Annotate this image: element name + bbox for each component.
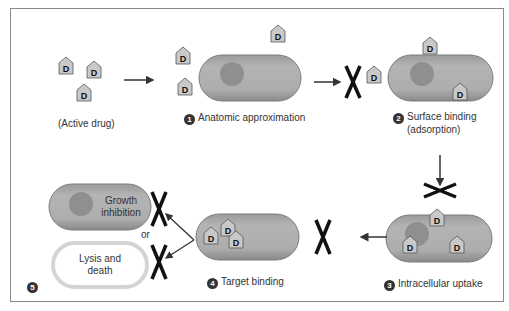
step-number-badge: 4 [207,278,218,289]
step3-text: Intracellular uptake [398,278,483,289]
drug-icon [176,47,190,64]
arrow-branch-down-icon [166,240,194,258]
drug-icon [59,57,73,74]
drug-icon [430,209,444,226]
cell-step2 [367,37,493,101]
free-drug-group [59,57,101,101]
step-number-badge: 5 [27,282,38,293]
drug-icon [178,78,192,95]
growth-line2: inhibition [101,207,140,218]
label-step1: 1Anatomic approximation [184,112,305,125]
drug-icon [87,61,101,78]
growth-line1: Growth [105,195,137,206]
step-number-badge: 1 [184,114,195,125]
lysis-line2: death [87,265,112,276]
block-x-icon [152,192,166,226]
label-active-drug: (Active drug) [58,118,115,130]
or-connector: or [141,229,150,241]
step-number-badge: 2 [393,113,404,124]
block-x-icon [424,184,456,197]
arrow-branch-up-icon [166,214,194,240]
cell-step3 [386,209,492,262]
block-x-icon [316,220,330,254]
cell-step1 [176,25,301,101]
label-step5: 5 [27,280,41,293]
step4-text: Target binding [221,276,284,287]
label-step3: 3Intracellular uptake [384,278,483,291]
block-x-icon [152,245,166,279]
drug-icon [271,25,285,42]
label-growth-inhibition: Growth inhibition [96,195,146,219]
cell-step4 [196,214,299,260]
drug-icon [77,84,91,101]
step2-text-line1: Surface binding [407,111,477,122]
lysis-line1: Lysis and [79,253,121,264]
label-step4: 4Target binding [207,276,284,289]
drug-icon [367,66,381,83]
label-lysis-death: Lysis and death [72,253,128,277]
step2-text-line2: (adsorption) [393,124,460,135]
drug-icon [423,37,437,54]
block-x-icon [346,66,360,98]
step-number-badge: 3 [384,280,395,291]
step1-text: Anatomic approximation [198,112,305,123]
label-step2: 2Surface binding (adsorption) [393,111,477,136]
